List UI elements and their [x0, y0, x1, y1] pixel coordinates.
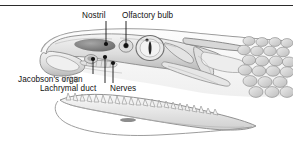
tooth [213, 109, 218, 115]
jacobsons-organ-point [91, 57, 95, 61]
nostril-point [104, 42, 108, 46]
scale [265, 87, 279, 98]
anatomical-figure: Nostril Olfactory bulb Jacobson's organ … [0, 0, 293, 145]
label-jacobsons-organ: Jacobson's organ [18, 75, 83, 84]
scale [269, 56, 282, 66]
scale [264, 46, 277, 56]
scale [280, 87, 293, 98]
label-olfactory-bulb: Olfactory bulb [122, 11, 173, 20]
nerves-point [111, 61, 115, 65]
scale [238, 65, 252, 75]
scale [243, 76, 257, 87]
scale [252, 66, 266, 76]
scale [280, 67, 293, 77]
label-nostril: Nostril [82, 11, 106, 20]
tooth [199, 106, 204, 113]
tooth [206, 108, 211, 114]
label-nerves: Nerves [110, 84, 136, 93]
orbit-upper-spot [145, 38, 148, 41]
scale [273, 77, 287, 88]
scale [242, 55, 255, 65]
label-lachrymal-duct: Lachrymal duct [40, 84, 96, 93]
snake-skull-illustration [0, 0, 293, 145]
scale [249, 87, 263, 98]
scale [277, 47, 290, 57]
scale [256, 38, 268, 47]
scale [255, 56, 268, 66]
scale [238, 45, 251, 55]
scale [251, 46, 264, 56]
scale [243, 37, 255, 46]
scale [258, 77, 272, 88]
scale [266, 66, 280, 76]
lachrymal-duct-point [103, 55, 107, 59]
scale [269, 38, 281, 47]
olfactory-bulb-point [124, 44, 128, 48]
scale [281, 39, 293, 48]
mandible-foramen [120, 118, 136, 122]
scale [282, 57, 293, 67]
